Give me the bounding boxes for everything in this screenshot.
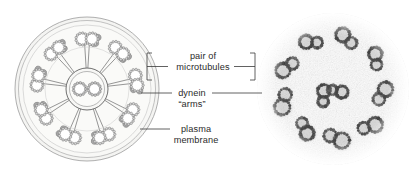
outer-doublet xyxy=(75,32,99,46)
dynein-label-line1: dynein xyxy=(178,88,206,98)
microtubules-label-line1: pair of xyxy=(190,51,217,61)
schematic-diagram xyxy=(15,17,159,161)
dynein-label-line2: “arms” xyxy=(178,99,205,109)
membrane-label-line2: membrane xyxy=(174,135,219,145)
microtubules-label-line2: microtubules xyxy=(176,62,230,72)
membrane-label-line1: plasma xyxy=(181,124,212,134)
axoneme-figure: pair of microtubules dynein “arms” plasm… xyxy=(0,0,412,179)
